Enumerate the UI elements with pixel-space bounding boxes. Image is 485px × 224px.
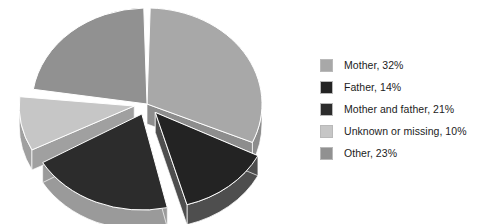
legend-item-unknown-or-missing[interactable]: Unknown or missing, 10%	[320, 124, 480, 139]
legend-swatch-icon-mother	[320, 59, 333, 72]
legend-item-other[interactable]: Other, 23%	[320, 146, 480, 161]
legend-item-mother-and-father[interactable]: Mother and father, 21%	[320, 102, 480, 117]
pie-plot-area	[0, 0, 300, 224]
legend-swatch-icon-mother-and-father	[320, 103, 333, 116]
legend-swatch-icon-other	[320, 147, 333, 160]
legend-label-unknown-or-missing: Unknown or missing, 10%	[344, 125, 467, 138]
legend-swatch-icon-father	[320, 81, 333, 94]
chart-legend: Mother, 32% Father, 14% Mother and fathe…	[320, 58, 480, 161]
pie-svg	[0, 0, 300, 224]
legend-swatch-icon-unknown-or-missing	[320, 125, 333, 138]
legend-label-father: Father, 14%	[344, 81, 401, 94]
legend-label-mother-and-father: Mother and father, 21%	[344, 103, 454, 116]
pie-slice-other[interactable]	[33, 8, 147, 104]
legend-item-mother[interactable]: Mother, 32%	[320, 58, 480, 73]
pie-chart: Mother, 32% Father, 14% Mother and fathe…	[0, 0, 485, 224]
legend-label-mother: Mother, 32%	[344, 59, 404, 72]
legend-item-father[interactable]: Father, 14%	[320, 80, 480, 95]
legend-label-other: Other, 23%	[344, 147, 397, 160]
